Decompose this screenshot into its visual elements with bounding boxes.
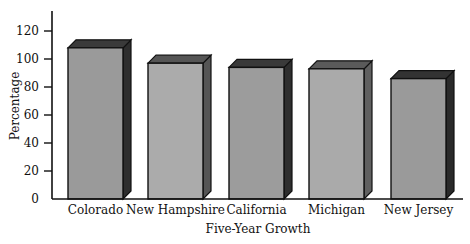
y-tick-label: 120 bbox=[16, 24, 39, 38]
bar-side-face bbox=[123, 40, 131, 199]
bar-chart: 020406080100120 ColoradoNew HampshireCal… bbox=[0, 0, 470, 244]
bar-california bbox=[229, 59, 292, 199]
bar-side-face bbox=[364, 61, 372, 199]
y-tick-label: 0 bbox=[31, 192, 39, 206]
y-tick-label: 60 bbox=[24, 108, 39, 122]
bar-side-face bbox=[203, 55, 211, 199]
bar-side-face bbox=[446, 71, 454, 199]
bar-front-face bbox=[229, 67, 284, 199]
x-category-label: Michigan bbox=[308, 203, 365, 217]
x-axis-title: Five-Year Growth bbox=[206, 222, 311, 236]
y-axis-title: Percentage bbox=[8, 72, 22, 141]
bar-michigan bbox=[309, 61, 372, 199]
x-category-label: Colorado bbox=[68, 203, 123, 217]
bar-new-jersey bbox=[391, 71, 454, 199]
bar-top-face bbox=[68, 40, 131, 48]
x-category-label: California bbox=[226, 203, 286, 217]
x-labels-group: ColoradoNew HampshireCaliforniaMichiganN… bbox=[68, 203, 454, 217]
bar-top-face bbox=[391, 71, 454, 79]
bar-front-face bbox=[148, 63, 203, 199]
bar-colorado bbox=[68, 40, 131, 199]
x-category-label: New Jersey bbox=[384, 203, 454, 217]
y-tick-label: 80 bbox=[24, 80, 39, 94]
bar-front-face bbox=[309, 69, 364, 199]
bars-group bbox=[68, 40, 454, 199]
bar-front-face bbox=[68, 48, 123, 199]
y-tick-label: 100 bbox=[16, 52, 39, 66]
x-category-label: New Hampshire bbox=[126, 203, 225, 217]
bar-side-face bbox=[284, 59, 292, 199]
bar-top-face bbox=[148, 55, 211, 63]
bar-front-face bbox=[391, 79, 446, 199]
bar-new-hampshire bbox=[148, 55, 211, 199]
bar-top-face bbox=[309, 61, 372, 69]
y-tick-label: 40 bbox=[24, 136, 39, 150]
y-tick-label: 20 bbox=[24, 164, 39, 178]
bar-top-face bbox=[229, 59, 292, 67]
